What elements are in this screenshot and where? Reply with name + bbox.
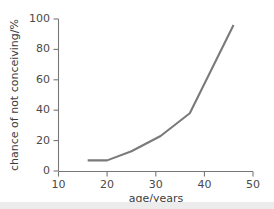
x-tick-label-10: 10 [52, 178, 66, 191]
x-tick-marks [59, 172, 254, 177]
x-tick-label-40: 40 [197, 178, 211, 191]
y-axis-title: chance of not conceiving/% [8, 19, 21, 171]
y-tick-label-0: 0 [43, 164, 50, 177]
series-line-chance-of-not-conceiving [88, 25, 234, 160]
x-tick-label-20: 20 [100, 178, 114, 191]
y-tick-label-100: 100 [29, 12, 50, 25]
y-tick-marks [54, 19, 59, 171]
bottom-band [0, 202, 274, 209]
chart-container: 0 20 40 60 80 100 10 20 30 40 50 age/yea… [0, 0, 274, 209]
x-tick-label-50: 50 [246, 178, 260, 191]
y-tick-label-60: 60 [36, 73, 50, 86]
y-tick-label-20: 20 [36, 134, 50, 147]
y-tick-label-80: 80 [36, 42, 50, 55]
line-chart: 0 20 40 60 80 100 10 20 30 40 50 age/yea… [0, 0, 274, 209]
y-tick-label-40: 40 [36, 103, 50, 116]
x-tick-label-30: 30 [149, 178, 163, 191]
